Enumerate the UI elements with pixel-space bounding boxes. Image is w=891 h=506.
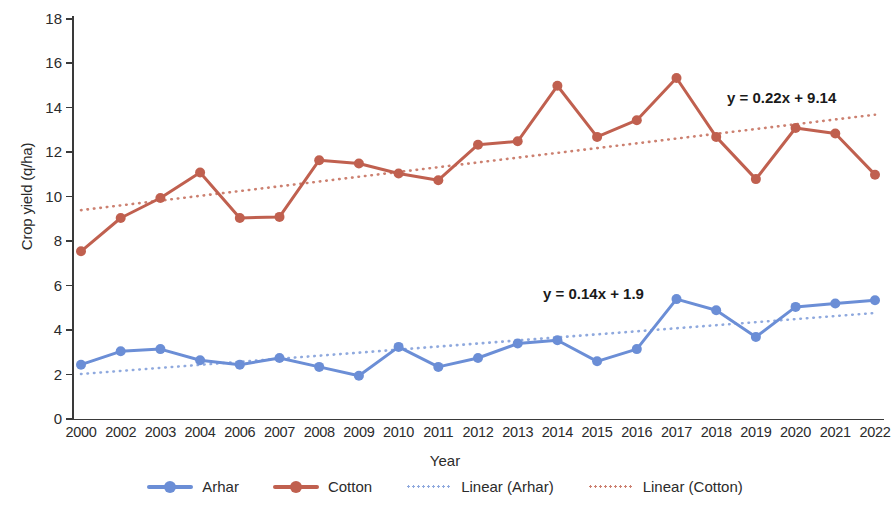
data-point bbox=[552, 335, 562, 345]
data-point bbox=[552, 81, 562, 91]
x-axis-tick-label: 2017 bbox=[661, 424, 692, 440]
x-axis-tick-label: 2009 bbox=[343, 424, 374, 440]
legend-item-label: Cotton bbox=[328, 478, 372, 495]
x-axis-tick-label: 2011 bbox=[423, 424, 453, 440]
x-axis-tick-label: 2000 bbox=[65, 424, 96, 440]
legend-item-cotton[interactable]: Cotton bbox=[273, 478, 372, 495]
x-axis-tick-label: 2007 bbox=[264, 424, 295, 440]
data-point bbox=[314, 362, 324, 372]
y-axis-tick-label: 8 bbox=[28, 232, 62, 249]
y-axis-tick-label: 6 bbox=[28, 276, 62, 293]
data-point bbox=[116, 346, 126, 356]
legend-item-label: Arhar bbox=[202, 478, 239, 495]
data-point bbox=[473, 353, 483, 363]
x-axis-tick-label: 2016 bbox=[621, 424, 652, 440]
data-point bbox=[354, 371, 364, 381]
series-canvas bbox=[72, 14, 884, 420]
x-axis-tick-label: 2013 bbox=[502, 424, 533, 440]
legend-item-linear-cotton[interactable]: Linear (Cotton) bbox=[588, 478, 743, 495]
data-point bbox=[592, 356, 602, 366]
data-point bbox=[870, 295, 880, 305]
data-point bbox=[711, 132, 721, 142]
x-axis-tick-label: 2021 bbox=[820, 424, 851, 440]
x-axis-tick-label: 2019 bbox=[740, 424, 771, 440]
data-point bbox=[791, 302, 801, 312]
data-point bbox=[76, 360, 86, 370]
y-axis-tick-label: 12 bbox=[28, 143, 62, 160]
data-point bbox=[592, 132, 602, 142]
data-point bbox=[195, 355, 205, 365]
legend-item-label: Linear (Cotton) bbox=[643, 478, 743, 495]
data-point bbox=[155, 193, 165, 203]
y-axis-tick-label: 2 bbox=[28, 365, 62, 382]
data-point bbox=[275, 212, 285, 222]
data-point bbox=[394, 169, 404, 179]
x-axis-tick-label: 2008 bbox=[304, 424, 335, 440]
trendline-cotton bbox=[81, 115, 875, 210]
data-point bbox=[433, 175, 443, 185]
legend-item-label: Linear (Arhar) bbox=[461, 478, 554, 495]
x-axis-tick-label: 2018 bbox=[701, 424, 732, 440]
data-point bbox=[830, 129, 840, 139]
data-point bbox=[632, 115, 642, 125]
data-point bbox=[314, 155, 324, 165]
y-axis-tick-labels: 024681012141618 bbox=[28, 0, 62, 506]
arhar-trendline-equation: y = 0.14x + 1.9 bbox=[543, 285, 644, 302]
data-point bbox=[473, 140, 483, 150]
data-point bbox=[830, 299, 840, 309]
data-point bbox=[433, 362, 443, 372]
data-point bbox=[672, 294, 682, 304]
x-axis-tick-label: 2004 bbox=[185, 424, 216, 440]
plot-area bbox=[72, 14, 884, 420]
data-point bbox=[235, 213, 245, 223]
data-point bbox=[195, 167, 205, 177]
data-point bbox=[791, 123, 801, 133]
data-point bbox=[513, 339, 523, 349]
data-point bbox=[711, 305, 721, 315]
data-point bbox=[394, 342, 404, 352]
y-axis-tick-label: 14 bbox=[28, 98, 62, 115]
y-axis-tick-label: 4 bbox=[28, 321, 62, 338]
data-point bbox=[632, 344, 642, 354]
data-point bbox=[513, 136, 523, 146]
x-axis-tick-labels: 2000200220032004200620072008200920102011… bbox=[72, 424, 884, 446]
legend-swatch-icon bbox=[273, 480, 319, 494]
legend-swatch-icon bbox=[147, 480, 193, 494]
x-axis-tick-label: 2006 bbox=[224, 424, 255, 440]
data-point bbox=[76, 246, 86, 256]
data-point bbox=[235, 360, 245, 370]
legend-swatch-icon bbox=[588, 480, 634, 494]
x-axis-tick-label: 2010 bbox=[383, 424, 414, 440]
x-axis-tick-label: 2003 bbox=[145, 424, 176, 440]
y-axis-tick-label: 18 bbox=[28, 10, 62, 27]
x-axis-tick-label: 2012 bbox=[462, 424, 493, 440]
legend-item-arhar[interactable]: Arhar bbox=[147, 478, 239, 495]
cotton-trendline-equation: y = 0.22x + 9.14 bbox=[727, 89, 836, 106]
chart-legend: ArharCottonLinear (Arhar)Linear (Cotton) bbox=[0, 478, 890, 495]
data-point bbox=[155, 344, 165, 354]
data-point bbox=[116, 213, 126, 223]
data-point bbox=[275, 353, 285, 363]
data-point bbox=[354, 159, 364, 169]
x-axis-tick-label: 2022 bbox=[859, 424, 890, 440]
legend-swatch-icon bbox=[406, 480, 452, 494]
x-axis-title: Year bbox=[0, 452, 890, 469]
y-axis-tick-label: 0 bbox=[28, 410, 62, 427]
legend-item-linear-arhar[interactable]: Linear (Arhar) bbox=[406, 478, 554, 495]
x-axis-tick-label: 2020 bbox=[780, 424, 811, 440]
y-axis-tick-label: 16 bbox=[28, 54, 62, 71]
data-point bbox=[751, 332, 761, 342]
y-axis-tick-label: 10 bbox=[28, 187, 62, 204]
data-point bbox=[870, 170, 880, 180]
x-axis-tick-label: 2015 bbox=[582, 424, 613, 440]
x-axis-tick-label: 2014 bbox=[542, 424, 573, 440]
data-point bbox=[672, 73, 682, 83]
x-axis-tick-label: 2002 bbox=[105, 424, 136, 440]
data-point bbox=[751, 174, 761, 184]
